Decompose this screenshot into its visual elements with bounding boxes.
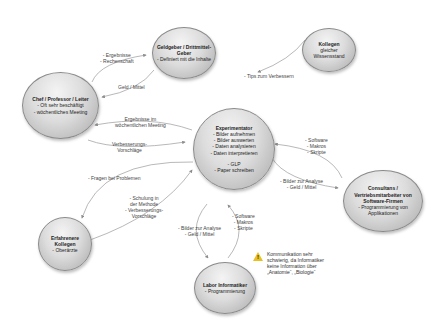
node-consultans[interactable]: Consultans / Vertriebsmitarbeiter von So… xyxy=(343,170,423,232)
warning-note: ! Kommunikation sehr schwierig, da Infor… xyxy=(253,251,324,275)
edge-label-geldgeber-chef: Geld / Mittel xyxy=(118,84,145,90)
warning-icon: ! xyxy=(253,252,263,261)
edge-label-consultans-exp: - Software- Makros- Skripte xyxy=(305,137,328,155)
node-title: Erfahrenere Kollegen xyxy=(45,235,85,247)
node-line: - wöchentliches Meeting xyxy=(34,109,88,115)
node-line: Wissensstand xyxy=(313,53,344,59)
node-experimentator[interactable]: Experimentator - Bilder aufnehmen - Bild… xyxy=(193,108,275,190)
node-labor-informatiker[interactable]: Labor Informatiker - Programmierung xyxy=(194,262,256,314)
edge-label-exp-erfahrene: - Fragen bei Problemen xyxy=(88,175,141,181)
edge-label-erfahrene-exp: - Schulung inder Methode - Verbesserungs… xyxy=(125,195,163,219)
node-chef[interactable]: Chef / Professor / Leiter - Oft sehr bes… xyxy=(22,72,99,139)
node-erfahrene-kollegen[interactable]: Erfahrenere Kollegen - Oberärzte xyxy=(38,217,92,271)
node-line: Applikationen xyxy=(368,210,398,216)
edge-label-kollegen-exp: - Tips zum Verbessern xyxy=(244,73,294,79)
edge-label-chef-geldgeber: - Ergebnisse- Rechenschaft xyxy=(100,52,134,64)
node-line: - Oberärzte xyxy=(52,247,77,253)
node-kollegen[interactable]: Kollegen gleicher Wissensstand xyxy=(302,28,356,72)
node-geldgeber[interactable]: Geldgeber / Drittmittel-Geber - Definier… xyxy=(152,27,216,79)
warning-text: Kommunikation sehr schwierig, da Informa… xyxy=(267,251,324,275)
node-line: - Paper schreiben xyxy=(214,167,253,173)
edge-label-chef-exp: Verbesserungs-Vorschläge xyxy=(112,141,147,153)
node-line: - Programmierung xyxy=(205,288,245,294)
edge-label-exp-labor: - Bilder zur Analyse- Geld / Mittel xyxy=(178,225,221,237)
edge-label-exp-chef: Ergebnisse imwöchentlichen Meeting xyxy=(115,116,166,128)
edge-label-exp-consultans: - Bilder zur Analyse- Geld / Mittel xyxy=(280,178,323,190)
node-line: - Daten interpretieren xyxy=(210,150,257,156)
node-title: Geldgeber / Drittmittel-Geber xyxy=(153,44,215,56)
node-line: - Definiert mit die Inhalte xyxy=(157,56,211,62)
edge-label-labor-exp: - Software- Makros- Skripte xyxy=(232,213,255,231)
node-title: Consultans / Vertriebsmitarbeiter von So… xyxy=(349,185,417,204)
edge-kollegen-exp xyxy=(258,40,305,72)
